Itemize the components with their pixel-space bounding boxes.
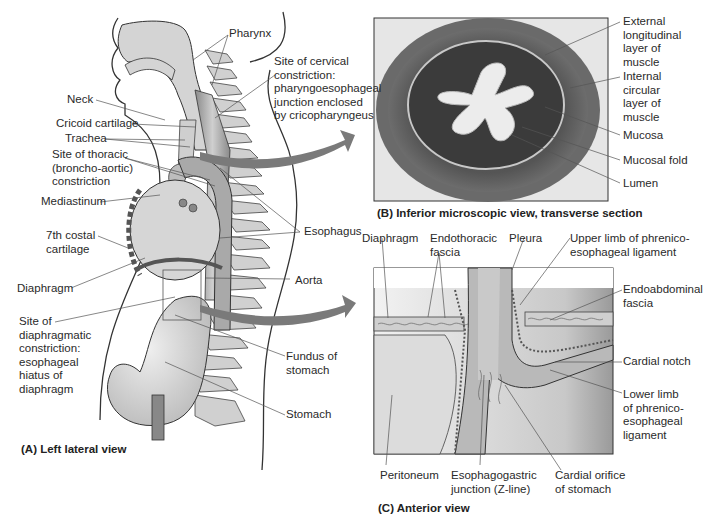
label-esophagogastric-junction: Esophagogastric junction (Z-line) — [451, 469, 537, 496]
label-endothoracic-fascia: Endothoracic fascia — [430, 232, 497, 259]
label-mucosal-fold: Mucosal fold — [623, 154, 688, 168]
panel-c-drawing — [374, 268, 613, 454]
label-external-longitudinal-muscle: External longitudinal layer of muscle — [623, 15, 681, 69]
label-trachea: Trachea — [65, 132, 107, 146]
caption-panel-c: (C) Anterior view — [378, 502, 470, 514]
label-esophagus: Esophagus — [304, 225, 362, 239]
label-mucosa: Mucosa — [623, 129, 663, 143]
label-endoabdominal-fascia: Endoabdominal fascia — [623, 283, 703, 310]
label-lower-limb-phrenicoesophageal: Lower limb of phrenico- esophageal ligam… — [623, 388, 684, 442]
label-cardial-orifice: Cardial orifice of stomach — [555, 469, 625, 496]
label-upper-limb-phrenicoesophageal: Upper limb of phrenico- esophageal ligam… — [570, 232, 690, 259]
label-pleura: Pleura — [509, 232, 542, 246]
label-cardial-notch: Cardial notch — [623, 355, 691, 369]
label-7th-costal-cartilage: 7th costal cartilage — [46, 229, 95, 256]
panel-b-drawing — [374, 18, 608, 202]
label-neck: Neck — [67, 93, 93, 107]
label-diaphragmatic-constriction: Site of diaphragmatic constriction: esop… — [19, 315, 91, 396]
label-cervical-constriction: Site of cervical constriction: pharyngoe… — [274, 55, 381, 123]
label-peritoneum: Peritoneum — [380, 469, 439, 483]
caption-panel-a: (A) Left lateral view — [21, 443, 126, 455]
label-aorta: Aorta — [295, 274, 323, 288]
label-stomach: Stomach — [286, 408, 331, 422]
label-mediastinum: Mediastinum — [41, 195, 106, 209]
label-pharynx: Pharynx — [229, 27, 271, 41]
label-internal-circular-muscle: Internal circular layer of muscle — [623, 70, 661, 124]
label-fundus-of-stomach: Fundus of stomach — [286, 350, 337, 377]
caption-panel-b: (B) Inferior microscopic view, transvers… — [377, 207, 642, 219]
label-diaphragm-c: Diaphragm — [362, 232, 418, 246]
label-diaphragm-a: Diaphragm — [17, 282, 73, 296]
label-cricoid-cartilage: Cricoid cartilage — [56, 117, 138, 131]
label-lumen: Lumen — [623, 177, 658, 191]
label-thoracic-constriction: Site of thoracic (broncho-aortic) constr… — [52, 148, 133, 189]
